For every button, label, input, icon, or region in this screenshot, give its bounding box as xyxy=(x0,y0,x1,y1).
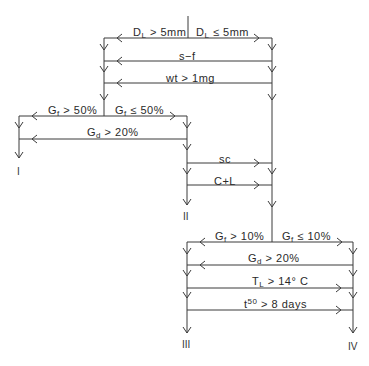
split-gf-gt-10: Gf > 10% xyxy=(215,231,264,244)
criterion-tl-gt-14c: TL > 14° C xyxy=(252,276,308,289)
split-gf-le-50: Gf ≤ 50% xyxy=(115,105,164,118)
criterion-gd-gt-20-upper: Gd > 20% xyxy=(87,127,139,140)
criterion-gd-gt-20-lower: Gd > 20% xyxy=(248,253,300,266)
criterion-s-f: s−f xyxy=(179,51,195,62)
criterion-c-plus-l: C+L xyxy=(214,176,236,187)
terminal-iii: III xyxy=(182,339,190,350)
terminal-ii: II xyxy=(183,211,189,222)
criterion-sc: sc xyxy=(219,154,231,165)
split-dl-le-5mm: DL ≤ 5mm xyxy=(196,27,249,40)
terminal-i: I xyxy=(17,166,20,177)
criterion-wt-gt-1mg: wt > 1mg xyxy=(166,73,215,84)
criterion-t50-gt-8-days: t50 > 8 days xyxy=(244,298,307,310)
split-gf-le-10: Gf ≤ 10% xyxy=(282,231,331,244)
terminal-iv: IV xyxy=(348,341,357,352)
split-gf-gt-50: Gf > 50% xyxy=(48,105,97,118)
split-dl-gt-5mm: DL > 5mm xyxy=(133,27,186,40)
